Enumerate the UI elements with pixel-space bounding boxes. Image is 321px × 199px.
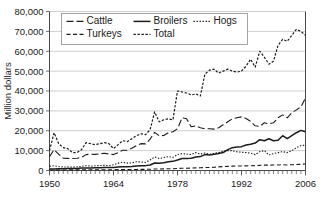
y-tick-label: 50,000 xyxy=(14,66,43,77)
x-tick-label: 1964 xyxy=(103,178,124,189)
x-axis-tick-marks xyxy=(50,171,306,176)
legend-label-cattle: Cattle xyxy=(87,15,114,26)
y-tick-label: 40,000 xyxy=(14,85,43,96)
x-axis-tick-labels: 19501964197819922006 xyxy=(39,178,316,189)
series-line-turkeys xyxy=(50,164,306,170)
y-tick-label: 60,000 xyxy=(14,46,43,57)
chart-container: 010,00020,00030,00040,00050,00060,00070,… xyxy=(0,0,321,199)
x-tick-label: 1950 xyxy=(39,178,60,189)
y-tick-label: 0 xyxy=(38,165,43,176)
legend-label-total: Total xyxy=(154,28,175,39)
y-axis-title: Million dollars xyxy=(2,62,13,120)
y-axis-label: Million dollars xyxy=(2,62,13,120)
livestock-value-line-chart: 010,00020,00030,00040,00050,00060,00070,… xyxy=(0,0,321,199)
x-tick-label: 1978 xyxy=(167,178,188,189)
series-line-hogs xyxy=(50,145,306,167)
y-tick-label: 20,000 xyxy=(14,125,43,136)
series-line-cattle xyxy=(50,98,306,159)
y-tick-label: 30,000 xyxy=(14,105,43,116)
x-tick-label: 2006 xyxy=(295,178,316,189)
x-tick-label: 1992 xyxy=(231,178,252,189)
y-tick-label: 70,000 xyxy=(14,26,43,37)
legend-label-turkeys: Turkeys xyxy=(87,28,122,39)
chart-legend: CattleBroilersHogsTurkeysTotal xyxy=(62,14,248,45)
legend-label-hogs: Hogs xyxy=(214,15,237,26)
y-tick-label: 10,000 xyxy=(14,145,43,156)
data-series-group xyxy=(50,29,306,170)
legend-label-broilers: Broilers xyxy=(154,15,188,26)
y-axis-tick-labels: 010,00020,00030,00040,00050,00060,00070,… xyxy=(14,6,43,176)
y-axis-tick-marks xyxy=(46,12,50,171)
series-line-broilers xyxy=(50,130,306,169)
y-tick-label: 80,000 xyxy=(14,6,43,17)
